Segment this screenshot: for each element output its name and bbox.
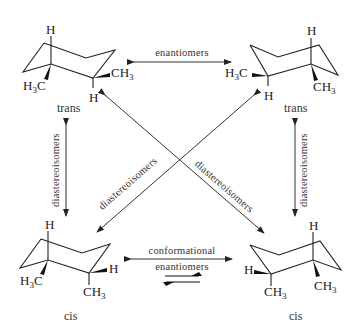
atom-label: CH3 (313, 79, 336, 96)
equilibrium-arrows-icon (163, 272, 202, 286)
chair-ring (250, 45, 338, 76)
atom-label: H (264, 88, 273, 103)
double-arrow (97, 95, 254, 232)
relation-left-diastereoisomers: diastereoisomers (50, 125, 66, 216)
molecule-bottom-right-cis: H H CH3 CH3 cis (244, 218, 341, 323)
molecule-top-right-trans: H H3C CH3 H trans (225, 23, 338, 115)
caption-trans: trans (57, 101, 81, 115)
relation-diagonal-2-diastereoisomers: diastereoisomers (96, 95, 254, 232)
molecule-bottom-left-cis: H H3C H CH3 cis (20, 217, 118, 323)
relation-diagonal-1-diastereoisomers: diastereoisomers (105, 95, 264, 233)
atom-label: H3C (225, 65, 248, 82)
relation-label-line2: enantiomers (155, 261, 209, 272)
atom-label: H (244, 262, 253, 277)
double-arrow (105, 95, 264, 233)
atom-label: H (45, 217, 54, 232)
chair-ring (23, 43, 115, 78)
relation-top-enantiomers: enantiomers (134, 47, 231, 62)
wedge-bond (252, 73, 268, 77)
atom-label: H (309, 218, 318, 233)
caption-cis: cis (289, 309, 303, 323)
atom-label: H3C (23, 78, 46, 95)
atom-label: H (46, 22, 55, 37)
atom-label: CH3 (83, 284, 106, 301)
chair-ring (20, 239, 110, 273)
atom-label: H (109, 261, 118, 276)
molecule-top-left-trans: H H3C CH3 H trans (23, 22, 134, 115)
atom-label: H3C (20, 273, 43, 290)
atom-label: H (307, 23, 316, 38)
atom-label: H (89, 90, 98, 105)
relation-label: enantiomers (155, 47, 209, 58)
relation-label: diastereoisomers (50, 133, 61, 207)
chair-ring (250, 241, 341, 274)
caption-cis: cis (64, 309, 78, 323)
relation-right-diastereoisomers: diastereoisomers (295, 125, 309, 216)
relation-label-line1: conformational (149, 245, 216, 256)
atom-label: CH3 (314, 278, 337, 295)
relation-label: diastereoisomers (298, 133, 309, 207)
stereoisomer-diagram: H H3C CH3 H trans H H3C CH3 H trans H H3… (0, 0, 358, 331)
relation-bottom-conformational-enantiomers: conformational enantiomers (131, 245, 232, 286)
caption-trans: trans (284, 101, 308, 115)
relation-label: diastereoisomers (96, 155, 159, 212)
atom-label: CH3 (111, 65, 134, 82)
relation-label: diastereoisomers (193, 158, 256, 215)
atom-label: CH3 (264, 284, 287, 301)
